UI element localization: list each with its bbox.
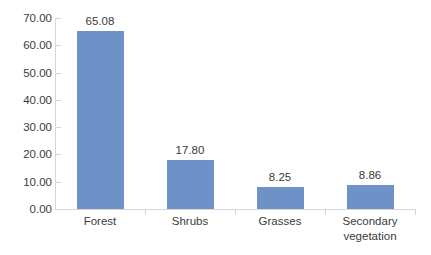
x-axis-category-label: Secondaryvegetation [325,214,415,244]
bar[interactable] [347,185,394,209]
x-axis-category-label: Forest [55,214,145,229]
bar-value-label: 8.86 [325,168,416,182]
bar-chart: 70.0060.0050.0040.0030.0020.0010.000.00 … [0,0,431,255]
y-axis-tick-label: 10.00 [23,174,52,190]
x-axis-category-label-line: Secondary [325,214,415,229]
y-axis-tick-label: 60.00 [23,37,52,53]
y-axis-tick-label: 70.00 [23,10,52,26]
plot-area: 65.0817.808.258.86 [55,18,415,209]
bar[interactable] [77,31,124,209]
x-axis-separator-tick [415,209,416,215]
y-axis-tick-label: 50.00 [23,65,52,81]
bar-value-label: 65.08 [55,14,146,28]
y-axis-tick-label: 0.00 [30,201,52,217]
x-axis-category-label-line: vegetation [325,229,415,244]
x-axis-category-label: Grasses [235,214,325,229]
x-axis-category-label: Shrubs [145,214,235,229]
bar-value-label: 8.25 [235,170,326,184]
bar-value-label: 17.80 [145,143,236,157]
y-axis-tick-label: 20.00 [23,146,52,162]
x-axis-category-label-line: Forest [55,214,145,229]
bar[interactable] [167,160,214,209]
bar-group: 17.80 [167,18,214,209]
bar-group: 65.08 [77,18,124,209]
x-axis-category-label-line: Grasses [235,214,325,229]
bar-group: 8.25 [257,18,304,209]
y-axis-tick-label: 40.00 [23,92,52,108]
x-axis-category-label-line: Shrubs [145,214,235,229]
bar[interactable] [257,187,304,210]
bar-group: 8.86 [347,18,394,209]
y-axis-tick-label: 30.00 [23,119,52,135]
